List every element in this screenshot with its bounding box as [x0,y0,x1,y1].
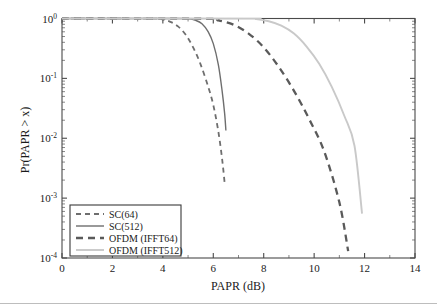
x-tick-labels: 02468101214 [59,262,421,274]
papr-ccdf-chart: 02468101214 10010-110-210-310-4 PAPR (dB… [0,0,437,308]
legend-label-2: OFDM (IFFT64) [109,233,178,245]
x-tick-label: 6 [211,262,217,274]
series-line-1 [62,18,226,130]
legend-label-1: SC(512) [109,221,143,233]
y-tick-label: 10-1 [40,71,57,85]
y-tick-label: 10-4 [40,251,57,265]
legend-label-0: SC(64) [109,209,138,221]
x-tick-label: 8 [261,262,267,274]
y-tick-labels: 10010-110-210-310-4 [40,11,58,264]
x-tick-label: 4 [160,262,166,274]
x-tick-label: 0 [59,262,65,274]
y-tick-label: 10-2 [40,131,57,145]
series-line-3 [62,19,362,214]
x-tick-label: 14 [410,262,422,274]
y-tick-label: 100 [42,11,57,25]
series-line-0 [62,19,225,183]
x-tick-label: 12 [359,262,370,274]
y-tick-label: 10-3 [40,191,57,205]
x-axis-title: PAPR (dB) [211,279,265,293]
legend-label-3: OFDM (IFFT512) [109,245,183,257]
chart-legend: SC(64)SC(512)OFDM (IFFT64)OFDM (IFFT512) [70,205,183,257]
chart-figure: 02468101214 10010-110-210-310-4 PAPR (dB… [0,0,437,308]
y-axis-title: Pr(PAPR > x) [18,107,32,173]
x-tick-label: 10 [309,262,321,274]
x-tick-label: 2 [110,262,116,274]
